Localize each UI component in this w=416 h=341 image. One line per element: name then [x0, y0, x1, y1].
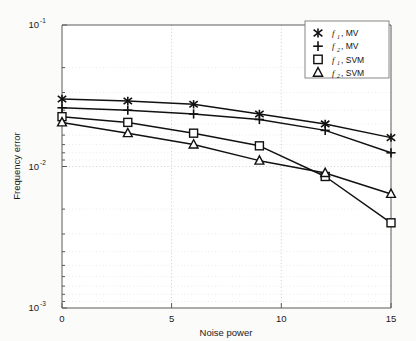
y-tick-base-2: 10 — [28, 302, 39, 313]
y-tick-exp-1: -2 — [40, 159, 46, 166]
figure-canvas: 10 -1 10 -2 10 -3 0 5 10 15 Noise power … — [0, 0, 416, 341]
y-axis-title: Frequency error — [11, 132, 22, 200]
legend-subscript-1: 2 — [337, 47, 340, 53]
legend: f1, MVf2, MVf1, SVMf2, SVM — [305, 21, 389, 79]
y-tick-base-0: 10 — [28, 19, 39, 30]
y-tick-label-1: 10 -2 — [28, 159, 46, 172]
y-tick-label-0: 10 -1 — [28, 17, 46, 30]
marker-square — [255, 142, 263, 150]
x-tick-label-0: 0 — [59, 313, 64, 324]
frequency-error-line-chart: 10 -1 10 -2 10 -3 0 5 10 15 Noise power … — [0, 0, 416, 341]
y-tick-exp-2: -3 — [40, 300, 46, 307]
legend-label-3: , SVM — [341, 68, 364, 78]
marker-square — [190, 129, 198, 137]
y-tick-label-2: 10 -3 — [28, 300, 46, 313]
x-tick-label-3: 15 — [386, 313, 397, 324]
marker-square — [124, 118, 132, 126]
legend-subscript-2: 1 — [337, 60, 340, 66]
y-tick-exp-0: -1 — [40, 17, 46, 24]
legend-label-2: , SVM — [341, 55, 364, 65]
legend-subscript-3: 2 — [337, 73, 340, 79]
marker-square — [314, 55, 322, 63]
legend-subscript-0: 1 — [337, 34, 340, 40]
y-tick-base-1: 10 — [28, 161, 39, 172]
x-axis-title: Noise power — [200, 327, 253, 338]
legend-label-0: , MV — [341, 28, 359, 38]
x-tick-label-2: 10 — [276, 313, 287, 324]
legend-label-1: , MV — [341, 41, 359, 51]
marker-square — [387, 219, 395, 227]
x-tick-label-1: 5 — [169, 313, 174, 324]
